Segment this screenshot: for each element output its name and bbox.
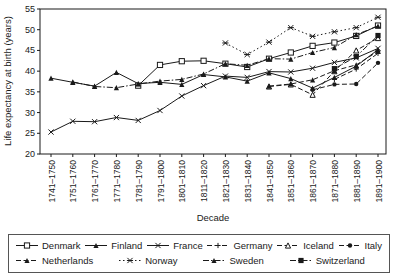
legend-item-switzerland: Switzerland	[290, 253, 365, 268]
data-point-marker	[332, 66, 337, 71]
x-tick-label: 1861–1870	[308, 160, 318, 203]
series-denmark	[136, 23, 381, 88]
y-tick-label: 35	[25, 87, 35, 97]
data-point-marker	[353, 25, 359, 30]
data-point-marker	[127, 258, 133, 263]
x-tick-label: 1781–1790	[134, 160, 144, 203]
legend-glyph-x	[147, 241, 169, 250]
data-point-marker	[347, 243, 351, 247]
x-tick-label: 1841–1850	[265, 160, 275, 203]
x-tick-label: 1751–1760	[68, 160, 78, 203]
data-point-marker	[332, 82, 336, 86]
data-point-marker	[266, 40, 272, 45]
y-tick-label: 25	[25, 128, 35, 138]
legend-glyph-triangle-open	[277, 241, 299, 250]
legend-item-finland: Finland	[85, 238, 142, 253]
life-expectancy-chart: Life expectancy at birth (years) Decade …	[0, 0, 398, 229]
legend-glyph-circle-filled	[339, 241, 361, 250]
x-tick-label: 1871–1880	[330, 160, 340, 203]
data-point-marker	[157, 62, 162, 67]
data-point-marker	[298, 258, 303, 263]
data-point-marker	[288, 50, 293, 55]
x-tick-label: 1771–1780	[112, 160, 122, 203]
legend-glyph-triangle-filled	[203, 256, 225, 265]
legend-label: Switzerland	[316, 253, 365, 268]
data-point-marker	[332, 77, 337, 82]
legend-item-norway: Norway	[119, 253, 177, 268]
series-france	[48, 46, 380, 135]
data-point-marker	[286, 243, 291, 248]
data-point-marker	[201, 83, 206, 88]
legend-label: Netherlands	[42, 253, 93, 268]
legend-label: Sweden	[229, 253, 263, 268]
legend-label: Norway	[145, 253, 177, 268]
data-point-marker	[24, 243, 29, 248]
data-point-marker	[114, 70, 119, 75]
x-tick-label: 1881–1890	[352, 160, 362, 203]
x-tick-label: 1761–1770	[90, 160, 100, 203]
legend-row: NetherlandsNorwaySwedenSwitzerland	[16, 253, 382, 268]
data-point-marker	[157, 108, 162, 113]
x-tick-label: 1821–1830	[221, 160, 231, 203]
legend-item-italy: Italy	[339, 238, 382, 253]
data-point-marker	[201, 58, 206, 63]
x-tick-label: 1801–1810	[177, 160, 187, 203]
data-point-marker	[354, 82, 358, 86]
legend-glyph-triangle-filled	[16, 256, 38, 265]
data-point-marker	[48, 129, 53, 134]
x-tick-label: 1811–1820	[199, 160, 209, 202]
data-point-marker	[375, 15, 381, 20]
legend-label: Denmark	[42, 238, 81, 253]
data-point-marker	[114, 85, 119, 90]
series-finland	[48, 47, 380, 91]
y-tick-label: 45	[25, 45, 35, 55]
x-tick-label: 1831–1840	[243, 160, 253, 203]
figure: Life expectancy at birth (years) Decade …	[0, 0, 398, 274]
data-point-marker	[354, 48, 359, 53]
data-point-marker	[354, 54, 359, 59]
y-tick-label: 55	[25, 4, 35, 14]
legend-label: Finland	[111, 238, 142, 253]
legend-glyph-square-open	[16, 241, 38, 250]
x-tick-label: 1791–1800	[156, 160, 166, 203]
data-point-marker	[179, 93, 184, 98]
legend-item-denmark: Denmark	[16, 238, 81, 253]
legend-glyph-plus	[207, 241, 229, 250]
data-point-marker	[332, 40, 337, 45]
legend-item-iceland: Iceland	[277, 238, 334, 253]
data-point-marker	[375, 33, 380, 38]
legend-label: Italy	[365, 238, 382, 253]
legend-item-germany: Germany	[207, 238, 272, 253]
legend-item-sweden: Sweden	[203, 253, 263, 268]
x-axis-label: Decade	[197, 212, 230, 223]
data-point-marker	[310, 43, 315, 48]
data-point-marker	[244, 52, 250, 57]
legend-label: Iceland	[303, 238, 334, 253]
data-point-marker	[310, 50, 315, 55]
data-point-marker	[216, 243, 221, 248]
x-tick-label: 1741–1750	[47, 160, 57, 203]
y-axis: 2025303540455055	[25, 4, 40, 159]
legend-label: Germany	[233, 238, 272, 253]
data-point-marker	[179, 59, 184, 64]
legend-item-netherlands: Netherlands	[16, 253, 93, 268]
legend-glyph-triangle-filled	[85, 241, 107, 250]
data-point-marker	[310, 34, 316, 39]
x-axis: 1741–17501751–17601761–17701771–17801781…	[47, 154, 384, 203]
y-tick-label: 20	[25, 149, 35, 159]
legend-row: DenmarkFinlandFranceGermanyIcelandItaly	[16, 238, 382, 253]
legend-label: France	[173, 238, 203, 253]
data-point-marker	[288, 25, 294, 30]
y-tick-label: 50	[25, 25, 35, 35]
y-tick-label: 40	[25, 66, 35, 76]
legend-item-france: France	[147, 238, 203, 253]
data-point-marker	[331, 29, 337, 34]
data-point-marker	[376, 61, 380, 65]
legend-glyph-asterisk	[119, 256, 141, 265]
data-point-marker	[222, 40, 228, 45]
legend-glyph-square-filled	[290, 256, 312, 265]
y-tick-label: 30	[25, 108, 35, 118]
x-tick-label: 1891–1900	[374, 160, 384, 203]
legend: DenmarkFinlandFranceGermanyIcelandItalyN…	[8, 234, 390, 273]
data-point-marker	[310, 88, 314, 92]
